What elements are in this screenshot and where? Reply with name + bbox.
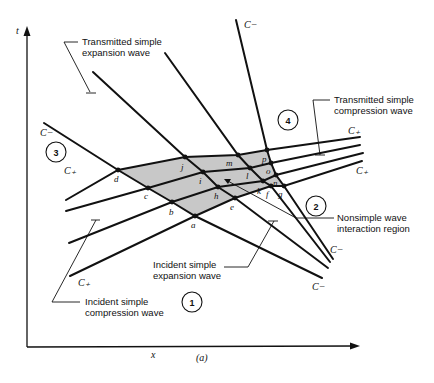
svg-text:4: 4 (285, 116, 290, 126)
point-label-d: d (114, 174, 119, 184)
point-label-j: j (180, 162, 184, 172)
svg-text:Incident simple: Incident simple (153, 259, 216, 270)
svg-text:expansion wave: expansion wave (82, 47, 150, 58)
c-plus-label-right: C₊ (356, 165, 369, 176)
point-label-o: o (266, 166, 271, 176)
figure-caption: (a) (196, 352, 208, 364)
x-axis-label-text: x (150, 349, 156, 360)
x-axis-arrow-icon (350, 343, 360, 350)
point-label-n: n (273, 178, 278, 188)
svg-text:expansion wave: expansion wave (153, 270, 221, 281)
annotation-incident-expansion: Incident simple expansion wave (153, 221, 278, 281)
point-label-c: c (144, 191, 148, 201)
c-minus-label-top: C− (244, 19, 257, 30)
point-label-p: p (261, 154, 267, 164)
svg-text:Incident simple: Incident simple (85, 296, 148, 307)
t-axis-arrow-icon (24, 26, 31, 36)
point-label-m: m (226, 158, 233, 168)
region-4: 4 (278, 110, 298, 130)
point-label-h: h (214, 191, 219, 201)
c-minus-characteristics (44, 20, 333, 278)
svg-text:1: 1 (189, 298, 194, 308)
svg-text:Transmitted simple: Transmitted simple (334, 94, 414, 105)
region-1: 1 (182, 292, 202, 312)
c-minus-label-right: C− (330, 244, 343, 255)
svg-text:Nonsimple wave: Nonsimple wave (337, 212, 407, 223)
c-minus-label-bottom: C− (312, 281, 325, 292)
c-plus-label-top-right: C₊ (348, 125, 361, 136)
svg-text:3: 3 (53, 148, 58, 158)
svg-text:Transmitted simple: Transmitted simple (82, 36, 162, 47)
svg-text:compression wave: compression wave (334, 105, 413, 116)
x-axis (27, 346, 354, 347)
svg-text:interaction region: interaction region (337, 223, 410, 234)
point-label-b: b (169, 207, 174, 217)
annotation-transmitted-expansion: Transmitted simple expansion wave (64, 36, 162, 93)
svg-text:2: 2 (313, 202, 318, 212)
point-label-f: f (266, 189, 270, 199)
annotation-transmitted-compression: Transmitted simple compression wave (313, 94, 414, 155)
wave-interaction-diagram: t x a b c d e f g h i j (0, 0, 434, 383)
region-3: 3 (46, 142, 66, 162)
t-axis-label: t (16, 25, 19, 36)
point-label-e: e (230, 202, 234, 212)
c-plus-label-left: C₊ (64, 165, 77, 176)
region-2: 2 (306, 196, 326, 216)
annotation-incident-compression: Incident simple compression wave (52, 220, 164, 318)
point-label-a: a (191, 220, 196, 230)
c-minus-label-left: C− (40, 127, 53, 138)
svg-text:compression wave: compression wave (85, 307, 164, 318)
point-label-g: g (278, 189, 283, 199)
c-plus-label-bottom-left: C₊ (78, 277, 91, 288)
